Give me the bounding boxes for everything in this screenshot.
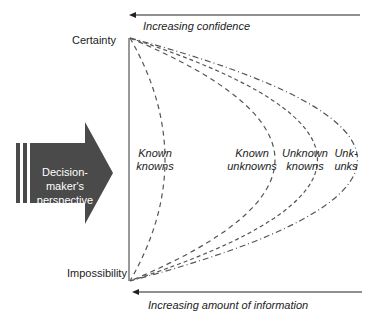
region-unknown-knowns: Unknownknowns: [281, 147, 329, 173]
bottom-arrow: [132, 289, 362, 295]
impossibility-label: Impossibility: [67, 267, 127, 279]
certainty-label: Certainty: [72, 34, 116, 46]
region-unk-unks: Unk-unks: [330, 147, 362, 173]
region-known-knowns: Knownknowns: [134, 147, 176, 173]
top-axis-label: Increasing confidence: [143, 20, 250, 32]
bottom-axis-label: Increasing amount of information: [148, 299, 308, 311]
perspective-label: Decision- maker's perspective: [28, 165, 102, 207]
top-arrow: [129, 12, 360, 18]
region-known-unknowns: Knownunknowns: [224, 147, 280, 173]
